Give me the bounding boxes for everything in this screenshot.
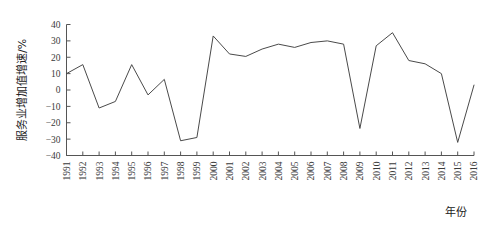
y-tick-label: −30 xyxy=(46,135,61,145)
x-tick-label: 2013 xyxy=(421,161,431,180)
y-tick-label: −40 xyxy=(46,151,61,161)
y-axis-title: 服务业增加值增速/% xyxy=(15,39,29,141)
x-tick-label: 2015 xyxy=(453,161,463,180)
y-tick-label: 10 xyxy=(51,69,61,79)
x-tick-label: 1992 xyxy=(78,161,88,180)
y-tick-label: −20 xyxy=(46,118,61,128)
data-series-group xyxy=(67,33,475,143)
x-tick-label: 1999 xyxy=(192,161,202,180)
x-tick-label: 2003 xyxy=(258,161,268,180)
x-tick-label: 2011 xyxy=(388,161,398,180)
x-tick-label: 2012 xyxy=(404,161,414,180)
y-tick-label: 0 xyxy=(56,85,61,95)
x-tick-label: 2000 xyxy=(209,161,219,180)
y-tick-label: −10 xyxy=(46,102,61,112)
x-tick-label: 2007 xyxy=(323,161,333,180)
x-tick-label: 2001 xyxy=(225,161,235,180)
x-tick-label: 1994 xyxy=(111,161,121,180)
x-tick-label: 2004 xyxy=(274,161,284,180)
x-tick-label: 2010 xyxy=(372,161,382,180)
x-tick-label: 2002 xyxy=(241,161,251,180)
x-tick-label: 1995 xyxy=(127,161,137,180)
x-tick-label: 2014 xyxy=(437,161,447,180)
y-tick-label: 30 xyxy=(51,36,61,46)
x-axis-title: 年份 xyxy=(445,205,467,219)
x-tick-label: 1996 xyxy=(143,161,153,180)
series-line-service-growth xyxy=(67,33,475,143)
x-tick-label: 1998 xyxy=(176,161,186,180)
x-tick-label: 2009 xyxy=(355,161,365,180)
x-tick-label: 2006 xyxy=(306,161,316,180)
x-tick-label: 2016 xyxy=(469,161,479,180)
x-tick-label: 2008 xyxy=(339,161,349,180)
chart-axes xyxy=(67,25,475,156)
x-tick-label: 1997 xyxy=(160,161,170,180)
line-chart: −40−30−20−10010203040 199119921993199419… xyxy=(0,0,501,226)
y-tick-label: 40 xyxy=(51,20,61,30)
x-tick-label: 1991 xyxy=(62,161,72,180)
x-tick-label: 2005 xyxy=(290,161,300,180)
chart-container: −40−30−20−10010203040 199119921993199419… xyxy=(0,0,501,226)
x-tick-label: 1993 xyxy=(95,161,105,180)
y-tick-label: 20 xyxy=(51,53,61,63)
